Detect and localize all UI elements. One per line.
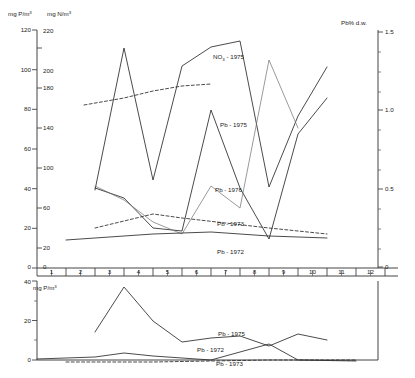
ticklabel-x-12: 12 xyxy=(367,268,374,275)
label-pb-1972: Pb - 1972 xyxy=(217,248,244,255)
ticklabel-pb-1p0: 1.0 xyxy=(385,106,394,113)
series-pb-1976-line xyxy=(95,60,298,234)
ticklabel-n-180: 180 xyxy=(43,84,54,91)
upper-left-p-ticks xyxy=(32,30,37,268)
ticklabel-n-20: 20 xyxy=(43,244,50,251)
series-no3-1975-line xyxy=(95,41,327,190)
label-pb-1975: Pb - 1975 xyxy=(220,121,247,128)
ticklabel-p-120: 120 xyxy=(21,26,32,33)
lower-left-ticklabels: 40 20 0 xyxy=(24,278,31,363)
figure-container: NO3 - 1975 Pb - 1975 Pb - 1976 Pb - 1973… xyxy=(0,0,415,378)
ticklabel-x-2: 2 xyxy=(79,268,83,275)
ticklabel-n-100: 100 xyxy=(43,164,54,171)
label-pb-1973: Pb - 1973 xyxy=(217,220,244,227)
series-pb-1975-line xyxy=(95,98,327,239)
upper-right-ticks xyxy=(378,32,383,267)
label-lower-pb-1973: Pb - 1973 xyxy=(216,360,243,367)
series-pb-1972-line xyxy=(66,232,327,240)
ticklabel-pb-0p5: 0.5 xyxy=(385,185,394,192)
ticklabel-x-6: 6 xyxy=(195,268,199,275)
ticklabel-x-5: 5 xyxy=(166,268,170,275)
ticklabel-p-80: 80 xyxy=(24,105,31,112)
ticklabel-x-9: 9 xyxy=(282,268,286,275)
ticklabel-pb-1p5: 1.5 xyxy=(385,28,394,35)
chart-svg: NO3 - 1975 Pb - 1975 Pb - 1976 Pb - 1973… xyxy=(0,0,415,378)
ticklabel-x-1: 1 xyxy=(50,268,54,275)
ticklabel-n-140: 140 xyxy=(43,124,54,131)
lower-panel: Pb - 1975 Pb - 1972 Pb - 1973 xyxy=(32,281,378,367)
upper-left-n-unit: mg N/m3 xyxy=(47,10,72,17)
ticklabel-p-60: 60 xyxy=(24,145,31,152)
label-pb-1976: Pb - 1976 xyxy=(215,186,242,193)
ticklabel-lower-40: 40 xyxy=(24,278,31,285)
ticklabel-lower-20: 20 xyxy=(24,317,31,324)
upper-left-n-ticks xyxy=(37,48,42,248)
ticklabel-x-10: 10 xyxy=(309,268,316,275)
ticklabel-x-4: 4 xyxy=(137,268,141,275)
upper-panel: NO3 - 1975 Pb - 1975 Pb - 1976 Pb - 1973… xyxy=(32,30,398,276)
series-pb-1973-line xyxy=(95,214,327,234)
ticklabel-p-20: 20 xyxy=(24,224,31,231)
ticklabel-x-8: 8 xyxy=(253,268,257,275)
label-no3-1975: NO3 - 1975 xyxy=(213,53,245,62)
label-lower-pb-1975: Pb - 1975 xyxy=(218,330,245,337)
lower-left-unit: mg P/m3 xyxy=(33,284,57,291)
series-no3-1975-trend-line xyxy=(84,84,211,105)
label-no3-1975-suffix: - 1975 xyxy=(225,53,245,60)
upper-right-unit: Pb% d.w. xyxy=(341,19,367,26)
ticklabel-p-40: 40 xyxy=(24,185,31,192)
upper-left-p-ticklabels: 120 100 80 60 40 20 0 xyxy=(21,26,32,270)
ticklabel-n-0: 0 xyxy=(43,263,47,270)
upper-right-ticklabels: 1.5 1.0 0.5 0 xyxy=(385,28,394,270)
label-no3-1975-text: NO xyxy=(213,53,222,60)
ticklabel-x-7: 7 xyxy=(224,268,228,275)
ticklabel-n-200: 200 xyxy=(43,67,54,74)
ticklabel-lower-0: 0 xyxy=(28,356,32,363)
series-lower-pb-1975-line xyxy=(95,287,327,346)
ticklabel-n-60: 60 xyxy=(43,204,50,211)
ticklabel-n-220: 220 xyxy=(43,27,54,34)
label-lower-pb-1972: Pb - 1972 xyxy=(197,346,224,353)
lower-left-ticks xyxy=(32,281,37,360)
upper-left-n-ticklabels: 220 200 180 140 100 60 20 0 xyxy=(43,27,54,270)
upper-x-ticklabels: 1 2 3 4 5 6 7 8 9 10 11 12 xyxy=(50,268,375,275)
ticklabel-x-11: 11 xyxy=(338,268,345,275)
upper-left-p-unit: mg P/m3 xyxy=(8,10,32,17)
ticklabel-p-100: 100 xyxy=(21,66,32,73)
ticklabel-p-0: 0 xyxy=(28,263,32,270)
ticklabel-x-3: 3 xyxy=(108,268,112,275)
ticklabel-pb-0: 0 xyxy=(385,263,389,270)
